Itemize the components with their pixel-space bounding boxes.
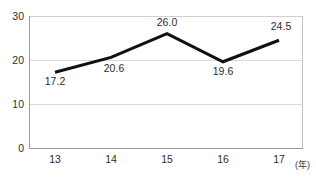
x-tick-label-15: 15 bbox=[154, 154, 180, 165]
x-tick-label-17: 17 bbox=[266, 154, 292, 165]
y-tick-label-0: 0 bbox=[2, 143, 24, 154]
y-tick-label-20: 20 bbox=[2, 55, 24, 66]
y-tick-label-10: 10 bbox=[2, 99, 24, 110]
data-label-16: 19.6 bbox=[206, 66, 240, 77]
line-chart: · ·· · ·· · 30 20 10 0 13 14 15 16 17 (年… bbox=[0, 0, 316, 181]
data-label-15: 26.0 bbox=[150, 17, 184, 28]
x-tick-label-14: 14 bbox=[98, 154, 124, 165]
x-tick-label-16: 16 bbox=[210, 154, 236, 165]
x-tick-label-13: 13 bbox=[42, 154, 68, 165]
data-label-17: 24.5 bbox=[264, 21, 298, 32]
data-label-13: 17.2 bbox=[38, 76, 72, 87]
y-tick-label-30: 30 bbox=[2, 11, 24, 22]
data-label-14: 20.6 bbox=[97, 63, 131, 74]
data-series-line bbox=[55, 34, 279, 73]
x-axis-unit-label: (年) bbox=[295, 160, 310, 170]
